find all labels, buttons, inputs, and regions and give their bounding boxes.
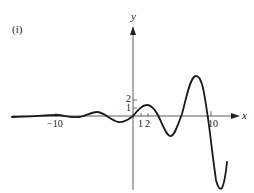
y-axis-arrow-icon <box>130 26 136 35</box>
y-axis-label: y <box>130 10 136 22</box>
x-axis-arrow-icon <box>231 113 240 119</box>
y-tick-label-2: 2 <box>126 93 131 104</box>
function-curve <box>12 76 227 189</box>
x-tick-label-neg10: −10 <box>47 118 63 129</box>
panel-label: (i) <box>12 23 23 36</box>
x-tick-label-1: 1 <box>138 118 143 129</box>
x-axis-label: x <box>241 109 247 121</box>
x-tick-label-10: 10 <box>208 118 218 129</box>
x-tick-label-2: 2 <box>145 118 150 129</box>
function-graph: (i) y x −10 1 2 10 1 2 <box>0 0 254 193</box>
